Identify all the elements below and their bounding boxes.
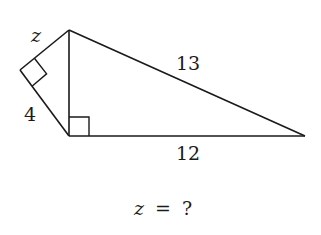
question-eq: =	[155, 197, 171, 219]
geometry-diagram: z 4 13 12 z = ?	[0, 0, 321, 235]
right-angle-marker-bottom	[69, 117, 89, 136]
question-var: z	[133, 197, 145, 219]
segment-13	[69, 30, 305, 136]
label-z: z	[30, 24, 42, 46]
label-12: 12	[176, 142, 200, 164]
segment-z	[20, 30, 69, 70]
right-angle-marker-left	[32, 58, 46, 86]
label-4: 4	[24, 103, 36, 125]
label-13: 13	[176, 52, 200, 74]
question-mark: ?	[182, 197, 192, 219]
